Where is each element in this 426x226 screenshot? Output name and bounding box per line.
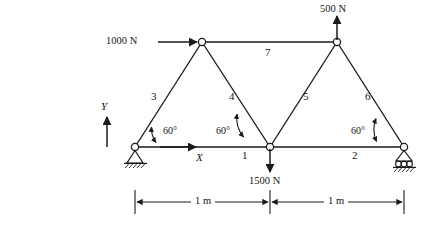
member-1-label: 1 <box>242 150 248 161</box>
angle-left-arc <box>151 127 156 143</box>
support-right-hatching <box>394 168 414 172</box>
member-6-label: 6 <box>365 91 371 102</box>
support-left-pinned <box>124 151 147 169</box>
truss-diagram <box>0 0 426 226</box>
dim-right-label: 1 m <box>324 196 348 207</box>
angle-right-arc <box>374 119 377 142</box>
member-4-line <box>202 42 270 147</box>
dim-left-label: 1 m <box>191 196 215 207</box>
angle-middle-arc <box>237 114 244 137</box>
support-right-roller <box>393 151 416 173</box>
member-3-label: 3 <box>151 91 157 102</box>
angle-right-label: 60° <box>351 126 365 136</box>
member-2-label: 2 <box>352 150 358 161</box>
support-left-hatching <box>125 164 145 168</box>
axis-y-label: Y <box>101 101 107 112</box>
node-left-apex <box>198 38 205 45</box>
support-right-rollers <box>396 161 413 167</box>
axis-x-label: X <box>196 152 203 163</box>
member-4-label: 4 <box>229 91 235 102</box>
member-5-label: 5 <box>303 91 309 102</box>
figure-canvas: 1000 N 500 N 1500 N 1 2 3 4 5 6 7 60° 60… <box>0 0 426 226</box>
load-1000n-label: 1000 N <box>106 36 137 47</box>
angle-middle-label: 60° <box>216 126 230 136</box>
load-1500n-label: 1500 N <box>249 176 280 187</box>
member-7-label: 7 <box>265 47 271 58</box>
angle-left-label: 60° <box>163 126 177 136</box>
load-500n-label: 500 N <box>320 4 346 15</box>
